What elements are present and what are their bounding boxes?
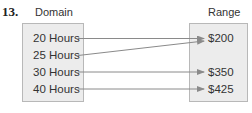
mapping-arrows	[0, 0, 252, 113]
arrow-25-to-200	[78, 41, 204, 56]
